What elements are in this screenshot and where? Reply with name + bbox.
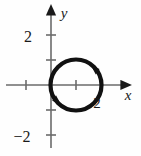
y-axis-tick-label-minus2: −2	[13, 128, 30, 145]
x-axis-curve-label-2: 2	[93, 95, 101, 111]
y-axis-letter-label: y	[59, 5, 68, 21]
x-axis-letter-label: x	[124, 87, 132, 103]
figure-canvas: 2 −2 2 x y	[0, 0, 141, 156]
y-axis-tick-label-2: 2	[24, 28, 32, 45]
math-figure-circle: 2 −2 2 x y	[0, 0, 141, 156]
